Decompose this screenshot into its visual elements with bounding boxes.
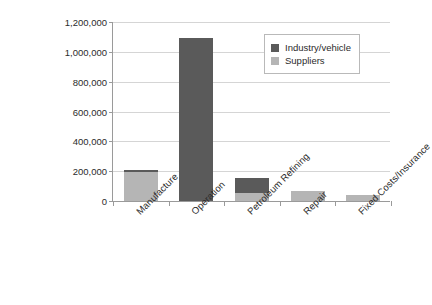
bar-operation[interactable] — [179, 38, 213, 201]
legend-label-industry-vehicle: Industry/vehicle — [285, 42, 351, 53]
y-axis-tick-label: 400,000 — [73, 136, 107, 147]
legend-swatch-icon-industry-vehicle — [271, 44, 279, 52]
y-axis-tick-mark — [109, 52, 113, 53]
x-axis-tick-mark — [391, 201, 392, 206]
y-axis-tick-label: 0 — [102, 196, 107, 207]
y-axis-tick-label: 600,000 — [73, 106, 107, 117]
bar-segment-industry-vehicle — [179, 38, 213, 201]
y-axis-tick-mark — [109, 171, 113, 172]
y-axis-tick-label: 1,200,000 — [65, 17, 107, 28]
x-axis-tick-mark — [113, 201, 114, 206]
y-axis-tick-mark — [109, 82, 113, 83]
gridline — [113, 82, 390, 83]
y-axis-tick-mark — [109, 141, 113, 142]
legend-label-suppliers: Suppliers — [285, 55, 325, 66]
gridline — [113, 22, 390, 23]
legend-swatch-icon-suppliers — [271, 57, 279, 65]
y-axis-tick-mark — [109, 22, 113, 23]
gridline — [113, 112, 390, 113]
y-axis-tick-label: 1,000,000 — [65, 46, 107, 57]
y-axis-tick-label: 800,000 — [73, 76, 107, 87]
legend-item-industry-vehicle[interactable]: Industry/vehicle — [271, 42, 351, 53]
x-axis-tick-mark — [224, 201, 225, 206]
x-axis-tick-mark — [335, 201, 336, 206]
chart-legend: Industry/vehicle Suppliers — [264, 34, 360, 74]
x-axis-tick-mark — [280, 201, 281, 206]
y-axis-tick-label: 200,000 — [73, 166, 107, 177]
y-axis-tick-mark — [109, 112, 113, 113]
x-axis-tick-mark — [169, 201, 170, 206]
legend-item-suppliers[interactable]: Suppliers — [271, 55, 351, 66]
gridline — [113, 141, 390, 142]
